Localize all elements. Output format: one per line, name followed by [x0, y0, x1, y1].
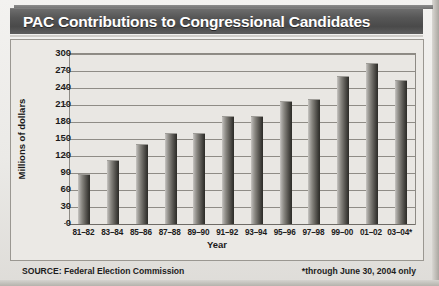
y-tick-mark: [64, 155, 69, 156]
bar: [395, 80, 407, 224]
x-tick-label: 85–86: [130, 228, 152, 237]
y-tick-mark: [64, 138, 69, 139]
bar: [193, 133, 205, 224]
title-underline: [10, 35, 423, 37]
y-tick-mark: [64, 87, 69, 88]
page-edge-right: [432, 0, 439, 286]
chart-footer: SOURCE: Federal Election Commission *thr…: [10, 263, 424, 279]
x-tick-label: 89–90: [187, 228, 209, 237]
y-tick-mark: [64, 172, 69, 173]
x-tick-label: 81–82: [72, 228, 94, 237]
x-tick-label: 83–84: [101, 228, 123, 237]
chart-title: PAC Contributions to Congressional Candi…: [10, 13, 370, 31]
bar: [136, 144, 148, 224]
bar: [366, 63, 378, 224]
y-tick-mark: [64, 206, 69, 207]
y-tick-mark: [64, 104, 69, 105]
x-tick-label: 03–04*: [387, 228, 412, 237]
x-tick-label: 93–94: [245, 228, 267, 237]
y-axis-label: Millions of dollars: [16, 99, 27, 180]
plot-area: [69, 53, 416, 225]
bar: [165, 133, 177, 224]
title-banner: PAC Contributions to Congressional Candi…: [10, 8, 423, 34]
bar: [280, 101, 292, 224]
footnote: *through June 30, 2004 only: [302, 266, 416, 276]
bars-series: [70, 54, 415, 224]
x-tick-label: 95–96: [274, 228, 296, 237]
y-tick-mark: [64, 189, 69, 190]
y-tick-mark: [64, 53, 69, 54]
bar: [251, 116, 263, 224]
chart-figure: PAC Contributions to Congressional Candi…: [0, 0, 439, 286]
page-edge-bottom: [0, 280, 439, 286]
x-tick-label: 01–02: [360, 228, 382, 237]
bar: [337, 76, 349, 224]
chart-frame: Millions of dollars 03060901201501802102…: [10, 39, 424, 261]
bar: [222, 116, 234, 224]
source-note: SOURCE: Federal Election Commission: [22, 266, 184, 276]
y-tick-mark: [64, 70, 69, 71]
x-tick-label: 87–88: [159, 228, 181, 237]
x-tick-label: 99–00: [331, 228, 353, 237]
bar: [107, 160, 119, 224]
y-tick-mark: [64, 121, 69, 122]
bar: [78, 174, 90, 224]
x-axis-label: Year: [11, 239, 423, 250]
y-tick-mark: [64, 223, 69, 224]
bar: [308, 99, 320, 224]
x-tick-label: 91–92: [216, 228, 238, 237]
x-tick-label: 97–98: [302, 228, 324, 237]
